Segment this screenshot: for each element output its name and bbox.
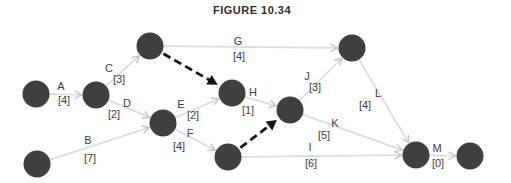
activity-B-label: B: [84, 134, 91, 146]
figure-10-34: FIGURE 10.34 A[4]B[7]C[3]D[2]E[2]F[4]G[4…: [0, 0, 511, 183]
activity-F-duration: [4]: [173, 140, 185, 152]
activity-A-label: A: [57, 80, 65, 92]
activity-D-duration: [2]: [108, 108, 120, 120]
figure-title: FIGURE 10.34: [213, 4, 292, 16]
activity-I-duration: [6]: [305, 157, 317, 169]
activity-L-duration: [4]: [359, 99, 371, 111]
event-node-n3: [137, 33, 164, 60]
dummy-2-arrow: [240, 125, 270, 148]
activity-K-arrow: [302, 114, 403, 150]
activity-C-label: C: [105, 62, 113, 74]
activity-J-duration: [3]: [309, 81, 321, 93]
event-node-n4: [150, 110, 177, 137]
event-node-n11: [24, 151, 51, 178]
event-node-n2: [83, 82, 110, 109]
activity-I-label: I: [308, 141, 311, 153]
activity-M-label: M: [432, 142, 441, 154]
event-node-n8: [339, 35, 366, 62]
activity-M-duration: [0]: [432, 157, 444, 169]
activity-K-label: K: [331, 117, 339, 129]
activity-M-arrow: [428, 155, 455, 156]
event-node-n10: [457, 143, 484, 170]
event-node-n9: [403, 142, 430, 169]
activity-network-diagram: FIGURE 10.34 A[4]B[7]C[3]D[2]E[2]F[4]G[4…: [0, 0, 511, 183]
activity-H-duration: [1]: [242, 104, 254, 116]
activity-G-arrow: [162, 46, 337, 48]
event-node-n6: [215, 144, 242, 171]
activity-A-duration: [4]: [58, 94, 70, 106]
activity-K-duration: [5]: [318, 129, 330, 141]
activity-B-arrow: [49, 127, 149, 160]
activity-D-label: D: [123, 97, 131, 109]
activity-B-duration: [7]: [84, 152, 96, 164]
activity-labels-layer: A[4]B[7]C[3]D[2]E[2]F[4]G[4]H[1]I[6]J[3]…: [57, 35, 444, 169]
event-node-n5: [219, 80, 246, 107]
activity-E-label: E: [177, 98, 184, 110]
activity-H-label: H: [249, 86, 257, 98]
dummy-1-arrow: [163, 54, 210, 81]
activity-L-label: L: [375, 87, 381, 99]
activity-F-label: F: [187, 127, 194, 139]
event-node-n1: [23, 81, 50, 108]
activity-G-label: G: [234, 35, 243, 47]
activity-G-duration: [4]: [233, 50, 245, 62]
activity-E-duration: [2]: [187, 109, 199, 121]
event-node-n7: [277, 97, 304, 124]
activity-I-arrow: [240, 155, 401, 157]
activity-C-duration: [3]: [113, 73, 125, 85]
